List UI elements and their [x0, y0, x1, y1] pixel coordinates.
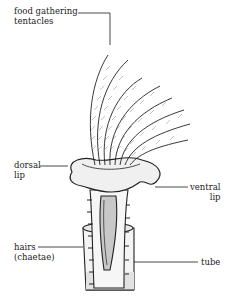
label-ventral-lip: ventral lip [190, 182, 221, 202]
label-ventral-line2: lip [190, 192, 221, 202]
tentacles-leader [78, 13, 110, 45]
label-tube-text: tube [201, 257, 220, 267]
label-hairs-line2: (chaetae) [14, 252, 54, 262]
label-tentacles-line2: tentacles [14, 16, 78, 26]
label-hairs-line1: hairs [14, 242, 54, 252]
label-tentacles: food gathering tentacles [14, 6, 78, 26]
label-ventral-line1: ventral [190, 182, 221, 192]
body [87, 190, 130, 288]
label-dorsal-line2: lip [14, 170, 41, 180]
label-hairs: hairs (chaetae) [14, 242, 54, 262]
label-tentacles-line1: food gathering [14, 6, 78, 16]
label-dorsal-line1: dorsal [14, 160, 41, 170]
label-tube: tube [201, 257, 220, 267]
label-dorsal-lip: dorsal lip [14, 160, 41, 180]
